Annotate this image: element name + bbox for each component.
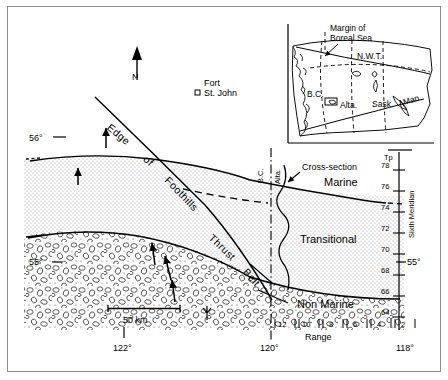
- inset-region-alta: Alta.: [340, 100, 357, 110]
- longitude-label-122: 122°: [113, 343, 132, 353]
- city-label-line2: St. John: [204, 88, 237, 98]
- label-edge: Edge: [105, 121, 133, 147]
- latitude-label-55-right: 55°: [407, 257, 421, 267]
- range-tick-label: 2: [401, 320, 405, 329]
- scale-bar-label: 50 km: [123, 315, 148, 325]
- facies-label-transitional: Transitional: [300, 233, 356, 245]
- range-tick-label: 4: [377, 320, 381, 329]
- range-tick-label: 12: [278, 320, 286, 329]
- cross-section-label: Cross-section: [302, 162, 357, 172]
- range-tick-label: 10: [302, 320, 310, 329]
- township-tick-label: 66: [381, 287, 389, 296]
- inset-region-bc: B.C.: [307, 89, 324, 99]
- latitude-label-56: 56°: [29, 133, 43, 143]
- province-label-alta: Alta.: [273, 169, 282, 184]
- latitude-label-55-left: 55°: [29, 257, 43, 267]
- province-label-bc: B.C.: [256, 168, 265, 183]
- inset-map: Margin of Boreal Sea N.W.T. B.C. Alta. S…: [288, 23, 434, 143]
- township-tick-label: 76: [381, 182, 389, 191]
- longitude-label-118: 118°: [396, 343, 414, 353]
- range-axis-label: Range: [305, 332, 332, 342]
- thrust-belt-label-edge: Edge: [105, 121, 133, 147]
- inset-annotation-line1: Margin of: [330, 23, 366, 33]
- geological-map-canvas: Edge of Foothills Thrust Belt B.C. Alta.: [0, 0, 448, 380]
- range-tick-label: 6: [353, 320, 357, 329]
- township-tick-label: 74: [381, 203, 389, 212]
- township-tick-label: 70: [381, 245, 389, 254]
- township-tick-label: 64: [381, 308, 389, 317]
- sixth-meridian-label: Sixth Meridian: [407, 190, 416, 238]
- city-label-line1: Fort: [204, 78, 221, 88]
- city-symbol-square: [195, 90, 200, 95]
- range-tick-label: 8: [329, 320, 333, 329]
- township-tick-label: 72: [381, 224, 389, 233]
- township-tick-label: 78: [381, 161, 389, 170]
- figure-root: Edge of Foothills Thrust Belt B.C. Alta.: [0, 0, 448, 380]
- township-tick-label: 68: [381, 266, 389, 275]
- north-arrow-label: N: [132, 72, 139, 82]
- city-fort-st-john: Fort St. John: [195, 78, 237, 98]
- facies-label-marine: Marine: [324, 176, 358, 188]
- longitude-label-120: 120°: [260, 343, 279, 353]
- inset-region-sask: Sask.: [372, 99, 393, 109]
- inset-region-nwt: N.W.T.: [357, 51, 382, 61]
- inset-region-man: Man.: [402, 92, 423, 107]
- facies-label-non-marine: Non Marine: [297, 298, 354, 310]
- cross-section-leader-arrow: [288, 172, 300, 182]
- inset-annotation-line2: Boreal Sea: [330, 33, 372, 43]
- north-arrow: N: [132, 46, 142, 82]
